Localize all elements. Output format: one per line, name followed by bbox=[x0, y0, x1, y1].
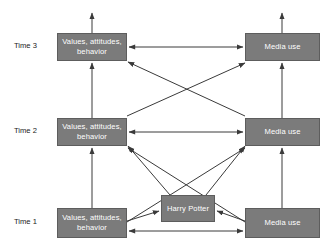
node-t2-media[interactable]: Media use bbox=[245, 118, 320, 146]
time-label-time3: Time 3 bbox=[14, 41, 37, 51]
arrow-harry-to-t2-media bbox=[206, 146, 245, 195]
diagram-canvas: Time 3 Time 2 Time 1 Values, attitudes, … bbox=[0, 0, 331, 249]
node-t3-values[interactable]: Values, attitudes, behavior bbox=[57, 33, 127, 61]
node-t3-media[interactable]: Media use bbox=[245, 33, 320, 61]
node-t2-values[interactable]: Values, attitudes, behavior bbox=[57, 118, 127, 146]
node-harry-potter[interactable]: Harry Potter bbox=[161, 195, 215, 222]
time-label-time1: Time 1 bbox=[14, 217, 37, 227]
time-label-time2: Time 2 bbox=[14, 126, 37, 136]
arrow-t1-media-to-harry bbox=[217, 211, 245, 221]
node-t1-media[interactable]: Media use bbox=[245, 208, 320, 238]
node-t1-values[interactable]: Values, attitudes, behavior bbox=[57, 208, 127, 238]
